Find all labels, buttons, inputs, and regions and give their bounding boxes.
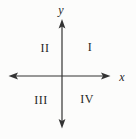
- quadrant-3-label: III: [34, 94, 48, 106]
- quadrant-2-label: II: [41, 42, 50, 54]
- y-axis-label: y: [58, 4, 63, 16]
- quadrant-4-label: IV: [80, 93, 94, 105]
- quadrant-diagram: y x I II III IV: [0, 0, 136, 139]
- x-axis-label: x: [119, 71, 124, 83]
- quadrant-1-label: I: [88, 41, 93, 53]
- axes-graphic: [0, 0, 136, 139]
